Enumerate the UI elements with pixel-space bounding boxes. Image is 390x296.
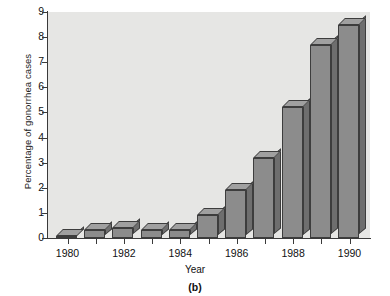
x-tick-mark — [265, 239, 266, 244]
y-tick-mark — [42, 188, 47, 189]
y-tick-mark — [42, 163, 47, 164]
y-tick-mark — [42, 87, 47, 88]
bar — [141, 223, 162, 238]
x-tick-mark — [96, 239, 97, 244]
bar — [169, 223, 190, 238]
bar-front-face — [338, 25, 359, 238]
y-tick-mark — [42, 112, 47, 113]
x-tick-mark — [209, 239, 210, 244]
bar — [338, 18, 359, 238]
bar — [282, 100, 303, 238]
x-tick-label: 1988 — [281, 247, 304, 259]
x-tick-label: 1986 — [225, 247, 248, 259]
y-tick-mark — [42, 62, 47, 63]
bar-side-face — [303, 98, 310, 234]
bar-front-face — [225, 190, 246, 238]
y-tick-mark — [42, 213, 47, 214]
bar-front-face — [112, 228, 133, 238]
bar-side-face — [246, 181, 253, 235]
x-tick-mark — [152, 239, 153, 244]
x-tick-label: 1984 — [169, 247, 192, 259]
bar — [253, 151, 274, 238]
bar-front-face — [282, 107, 303, 238]
y-tick-mark — [42, 138, 47, 139]
x-tick-mark — [350, 239, 351, 244]
y-axis-line — [47, 11, 48, 239]
bar-front-face — [169, 230, 190, 238]
bar-front-face — [197, 215, 218, 238]
bar-front-face — [253, 158, 274, 238]
bar — [56, 229, 77, 239]
x-tick-mark — [321, 239, 322, 244]
figure-caption: (b) — [0, 281, 390, 293]
x-tick-mark — [237, 239, 238, 244]
x-tick-mark — [293, 239, 294, 244]
bar — [84, 223, 105, 238]
bar-front-face — [310, 45, 331, 238]
x-tick-mark — [124, 239, 125, 244]
bar — [197, 208, 218, 238]
bar-side-face — [359, 15, 366, 234]
bar-front-face — [84, 230, 105, 238]
x-tick-label: 1990 — [338, 247, 361, 259]
bar — [112, 221, 133, 238]
x-tick-label: 1982 — [112, 247, 135, 259]
y-tick-mark — [42, 12, 47, 13]
bar — [310, 38, 331, 238]
bar-side-face — [331, 35, 338, 234]
x-tick-mark — [68, 239, 69, 244]
bar-top-face — [56, 229, 84, 236]
x-tick-label: 1980 — [56, 247, 79, 259]
bar — [225, 183, 246, 238]
y-tick-mark — [42, 37, 47, 38]
bar-front-face — [141, 230, 162, 238]
plot-area — [48, 12, 370, 238]
bars-layer — [48, 12, 370, 238]
y-tick-mark — [42, 238, 47, 239]
y-axis-tick-labels: 0123456789 — [22, 0, 44, 296]
bar-side-face — [274, 148, 281, 234]
x-tick-mark — [180, 239, 181, 244]
x-axis-title: Year — [0, 264, 390, 275]
figure-container: Percentage of gonorrhea cases 0123456789… — [0, 0, 390, 296]
